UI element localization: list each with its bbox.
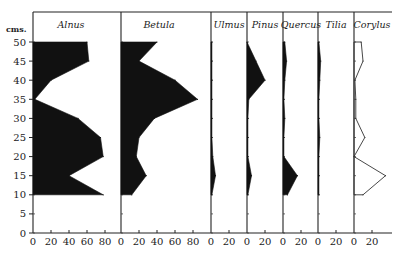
- data-point: [318, 99, 319, 100]
- y-tick-label: 45: [13, 56, 26, 67]
- x-tick-label: 20: [133, 236, 146, 247]
- data-point: [361, 41, 362, 42]
- data-point: [138, 61, 139, 62]
- y-tick-label: 5: [20, 208, 26, 219]
- pollen-curve-filled: [33, 42, 103, 195]
- panel-pinus: Pinus020: [244, 12, 279, 247]
- data-point: [211, 80, 212, 81]
- data-point: [103, 194, 104, 195]
- data-point: [215, 175, 216, 176]
- data-point: [100, 137, 101, 138]
- data-point: [77, 118, 78, 119]
- data-point: [211, 194, 212, 195]
- data-point: [211, 118, 212, 119]
- pollen-curve-outline: [354, 42, 386, 195]
- x-tick-label: 0: [351, 236, 357, 247]
- y-tick-label: 20: [13, 151, 26, 162]
- panel-corylus: Corylus020: [351, 12, 391, 247]
- data-point: [355, 118, 356, 119]
- data-point: [318, 41, 319, 42]
- data-point: [50, 80, 51, 81]
- data-point: [283, 137, 284, 138]
- panel-ulmus: Ulmus020: [208, 12, 245, 247]
- data-point: [211, 41, 212, 42]
- data-point: [251, 175, 252, 176]
- data-point: [318, 118, 319, 119]
- x-tick-label: 0: [208, 236, 214, 247]
- data-point: [284, 118, 285, 119]
- data-point: [319, 80, 320, 81]
- pollen-curve-filled: [247, 42, 265, 195]
- y-tick-label: 40: [13, 75, 26, 86]
- taxon-title: Tilia: [325, 19, 346, 30]
- data-point: [247, 194, 248, 195]
- x-tick-label: 20: [366, 236, 379, 247]
- data-point: [211, 61, 212, 62]
- data-point: [248, 99, 249, 100]
- x-tick-label: 0: [118, 236, 124, 247]
- data-point: [284, 80, 285, 81]
- data-point: [211, 99, 212, 100]
- data-point: [318, 156, 319, 157]
- y-axis-label: cms.: [6, 24, 27, 34]
- panels-layer: Alnus020406080Betula020406080Ulmus020Pin…: [30, 12, 391, 247]
- taxon-title: Betula: [142, 19, 175, 30]
- taxon-title: Ulmus: [213, 19, 244, 30]
- data-point: [174, 80, 175, 81]
- x-tick-label: 20: [45, 236, 58, 247]
- y-tick-label: 25: [13, 132, 26, 143]
- data-point: [103, 156, 104, 157]
- taxon-title: Alnus: [56, 19, 84, 30]
- pollen-curve-filled: [121, 42, 198, 195]
- x-tick-label: 20: [330, 236, 343, 247]
- data-point: [247, 137, 248, 138]
- y-tick-label: 15: [13, 170, 26, 181]
- x-tick-label: 0: [280, 236, 286, 247]
- data-point: [156, 41, 157, 42]
- data-point: [355, 99, 356, 100]
- x-tick-label: 60: [169, 236, 182, 247]
- data-point: [283, 99, 284, 100]
- x-tick-label: 40: [151, 236, 164, 247]
- data-point: [385, 175, 386, 176]
- data-point: [320, 61, 321, 62]
- data-point: [212, 156, 213, 157]
- data-point: [362, 61, 363, 62]
- x-tick-label: 60: [81, 236, 94, 247]
- data-point: [284, 41, 285, 42]
- data-point: [264, 80, 265, 81]
- data-point: [353, 156, 354, 157]
- taxon-title: Quercus: [281, 19, 322, 30]
- data-point: [297, 175, 298, 176]
- panel-alnus: Alnus020406080: [30, 12, 112, 247]
- data-point: [131, 194, 132, 195]
- data-point: [138, 137, 139, 138]
- data-point: [68, 175, 69, 176]
- x-tick-label: 0: [30, 236, 36, 247]
- x-tick-label: 20: [259, 236, 272, 247]
- y-tick-label: 10: [13, 189, 26, 200]
- data-point: [197, 99, 198, 100]
- data-point: [364, 137, 365, 138]
- data-point: [88, 61, 89, 62]
- x-tick-label: 40: [63, 236, 76, 247]
- data-point: [247, 156, 248, 157]
- data-point: [318, 175, 319, 176]
- x-tick-label: 0: [315, 236, 321, 247]
- data-point: [154, 118, 155, 119]
- panel-quercus: Quercus020: [280, 12, 322, 247]
- data-point: [318, 194, 319, 195]
- data-point: [136, 156, 137, 157]
- x-tick-label: 0: [244, 236, 250, 247]
- panel-tilia: Tilia020: [315, 12, 347, 247]
- y-tick-label: 50: [13, 37, 26, 48]
- data-point: [86, 41, 87, 42]
- x-tick-label: 20: [295, 236, 308, 247]
- data-point: [319, 137, 320, 138]
- taxon-title: Pinus: [251, 19, 279, 30]
- data-point: [247, 118, 248, 119]
- x-tick-label: 20: [223, 236, 236, 247]
- data-point: [34, 99, 35, 100]
- y-tick-label: 35: [13, 94, 26, 105]
- data-point: [211, 137, 212, 138]
